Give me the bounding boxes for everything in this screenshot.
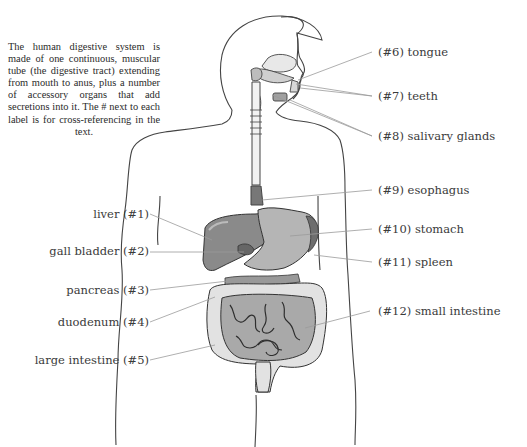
rectum [256, 362, 271, 392]
label-spleen: (#11) spleen [378, 255, 453, 269]
intro-paragraph: The human digestive system is made of on… [8, 41, 160, 138]
label-gall-bladder: gall bladder (#2) [49, 244, 149, 258]
label-duodenum: duodenum (#4) [58, 315, 149, 329]
label-stomach: (#10) stomach [378, 222, 464, 236]
label-tongue: (#6) tongue [378, 45, 448, 59]
label-salivary-glands: (#8) salivary glands [378, 129, 495, 143]
label-teeth: (#7) teeth [378, 89, 438, 103]
label-liver: liver (#1) [93, 207, 149, 221]
label-pancreas: pancreas (#3) [66, 283, 149, 297]
small-intestine-organ [221, 294, 316, 360]
label-small-intestine: (#12) small intestine [378, 304, 501, 318]
label-esophagus: (#9) esophagus [378, 183, 470, 197]
label-large-intestine: large intestine (#5) [35, 353, 149, 367]
